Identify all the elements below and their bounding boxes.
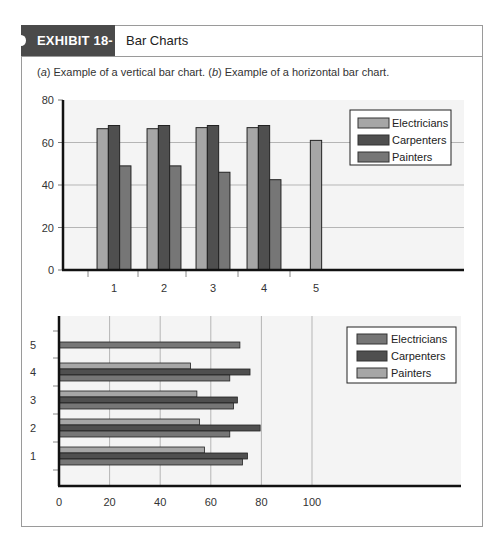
y-tick-label: 3 — [30, 394, 36, 406]
bar-carpenters-3 — [59, 397, 237, 403]
y-tick-label: 0 — [48, 264, 54, 276]
y-tick-label: 40 — [42, 179, 54, 191]
y-tick-label: 4 — [30, 366, 36, 378]
legend-swatch — [357, 368, 387, 378]
bar-electricians-4 — [247, 128, 258, 270]
x-tick-label: 60 — [205, 496, 217, 508]
legend: ElectriciansCarpentersPainters — [350, 110, 451, 165]
bar-painters-3 — [59, 391, 197, 397]
legend-label: Electricians — [391, 333, 448, 345]
x-tick-label: 3 — [210, 282, 216, 294]
legend-swatch — [357, 351, 387, 361]
x-tick-label: 0 — [56, 496, 62, 508]
bar-electricians-3 — [59, 403, 234, 409]
bar-electricians-2 — [59, 431, 230, 437]
legend-label: Electricians — [392, 117, 449, 129]
y-tick-label: 5 — [30, 339, 36, 351]
legend-swatch — [358, 135, 389, 145]
bar-painters-1 — [59, 447, 204, 453]
legend-label: Painters — [391, 367, 432, 379]
bar-carpenters-2 — [59, 425, 260, 431]
bar-carpenters-1 — [108, 126, 119, 271]
legend-swatch — [358, 118, 389, 128]
x-tick-label: 40 — [154, 496, 166, 508]
bar-painters-4 — [59, 363, 191, 369]
y-tick-label: 20 — [42, 222, 54, 234]
horizontal-bar-chart: 02040608010012345ElectriciansCarpentersP… — [30, 316, 461, 508]
legend-swatch — [358, 152, 389, 162]
bar-electricians-1 — [59, 459, 242, 465]
legend-label: Painters — [392, 151, 433, 163]
bar-carpenters-2 — [158, 126, 169, 271]
bar-electricians-2 — [147, 129, 158, 270]
x-tick-label: 2 — [161, 282, 167, 294]
bar-electricians-1 — [97, 129, 108, 270]
y-tick-label: 1 — [30, 450, 36, 462]
bar-carpenters-3 — [207, 126, 218, 271]
bar-electricians-4 — [59, 375, 230, 381]
bar-carpenters-4 — [59, 369, 250, 375]
legend-label: Carpenters — [391, 350, 446, 362]
vertical-bar-chart: 02040608012345ElectriciansCarpentersPain… — [42, 94, 464, 294]
bar-painters-2 — [170, 166, 181, 270]
x-tick-label: 100 — [303, 496, 321, 508]
bar-painters-1 — [120, 166, 131, 270]
x-tick-label: 20 — [103, 496, 115, 508]
legend-swatch — [357, 334, 387, 344]
bar-painters-2 — [59, 419, 199, 425]
y-tick-label: 80 — [42, 94, 54, 106]
bar-carpenters-1 — [59, 453, 247, 459]
bar-painters-4 — [270, 180, 281, 270]
bar-painters-3 — [219, 172, 230, 270]
bar-electricians-5 — [310, 140, 321, 270]
charts-canvas: 02040608012345ElectriciansCarpentersPain… — [0, 0, 502, 546]
y-tick-label: 2 — [30, 422, 36, 434]
x-tick-label: 4 — [261, 282, 267, 294]
x-tick-label: 5 — [313, 282, 319, 294]
x-tick-label: 80 — [255, 496, 267, 508]
y-tick-label: 60 — [42, 137, 54, 149]
legend: ElectriciansCarpentersPainters — [347, 327, 456, 383]
bar-carpenters-4 — [258, 126, 269, 271]
x-tick-label: 1 — [111, 282, 117, 294]
bar-electricians-3 — [196, 128, 207, 270]
legend-label: Carpenters — [392, 134, 447, 146]
bar-electricians-5 — [59, 342, 240, 348]
